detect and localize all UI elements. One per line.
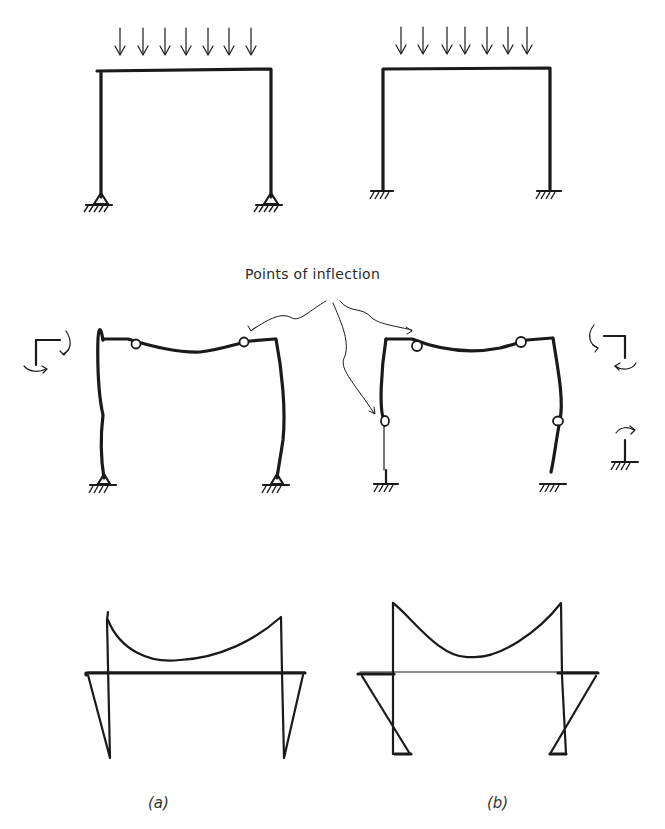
distributed-load-arrows-b [396, 27, 532, 54]
frame-b-deflected [374, 325, 638, 492]
fixed-support-icon [536, 191, 561, 199]
caption-b: (b) [487, 794, 508, 812]
joint-rotation-detail-a [24, 331, 70, 373]
fixed-support-icon [370, 191, 393, 199]
frame-a-deflected [24, 329, 289, 493]
structural-diagram [0, 0, 665, 829]
fixed-base-rotation-detail [611, 426, 638, 470]
pin-support-icon [84, 193, 112, 212]
frame-b-members [383, 68, 550, 190]
distributed-load-arrows-a [115, 28, 256, 55]
inflection-point-icon [132, 340, 141, 349]
fixed-support-icon [540, 484, 566, 492]
inflection-point-icon [516, 337, 526, 347]
pin-support-icon [89, 474, 116, 493]
pin-support-icon [254, 193, 282, 212]
moment-diagram-a [86, 612, 305, 758]
inflection-point-icon [412, 341, 422, 351]
frame-a-members [97, 69, 271, 197]
caption-a: (a) [148, 794, 169, 812]
moment-diagram-b [358, 603, 598, 754]
inflection-leader-lines [248, 301, 412, 414]
inflection-point-icon [240, 338, 249, 347]
frame-b-loaded [370, 27, 561, 199]
frame-a-loaded [84, 28, 282, 212]
inflection-point-icon [553, 417, 563, 426]
pin-support-icon [262, 474, 289, 493]
joint-rotation-detail-b [590, 325, 636, 370]
inflection-point-icon [381, 416, 389, 426]
fixed-support-icon [374, 470, 398, 492]
inflection-points-annotation: Points of inflection [245, 266, 380, 282]
